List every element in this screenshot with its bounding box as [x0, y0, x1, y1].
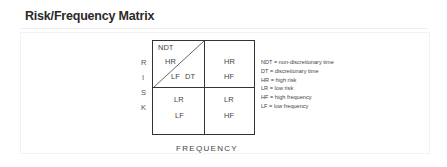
cell-bottom-right-line2: HF — [224, 111, 234, 120]
risk-letter-i: I — [142, 73, 144, 82]
cell-top-left-lf: LF — [171, 72, 180, 81]
frequency-axis-label: FREQUENCY — [176, 144, 238, 153]
cell-top-left-dt: DT — [185, 72, 195, 81]
page-title: Risk/Frequency Matrix — [25, 9, 154, 23]
legend-item: NDT = non-discretionary time — [261, 58, 334, 67]
cell-bottom-left-line1: LR — [174, 95, 184, 104]
legend-item: DT = discretionary time — [261, 67, 334, 76]
risk-letter-r: R — [141, 58, 146, 67]
cell-top-left-hr: HR — [165, 57, 176, 66]
cell-top-left-ndt: NDT — [158, 43, 173, 52]
legend-item: HF = high frequency — [261, 93, 334, 102]
legend: NDT = non-discretionary time DT = discre… — [261, 58, 334, 111]
cell-top-right-line1: HR — [224, 57, 235, 66]
cell-bottom-right-line1: LR — [224, 95, 234, 104]
legend-item: LF = low frequency — [261, 102, 334, 111]
risk-frequency-matrix: NDT HR LF DT HR HF LR LF LR HF — [152, 40, 255, 135]
cell-bottom-left-line2: LF — [175, 111, 184, 120]
risk-letter-s: S — [141, 88, 146, 97]
risk-letter-k: K — [141, 103, 146, 112]
cell-top-right-line2: HF — [224, 72, 234, 81]
legend-item: HR = high risk — [261, 76, 334, 85]
legend-item: LR = low risk — [261, 84, 334, 93]
title-divider — [20, 28, 428, 29]
